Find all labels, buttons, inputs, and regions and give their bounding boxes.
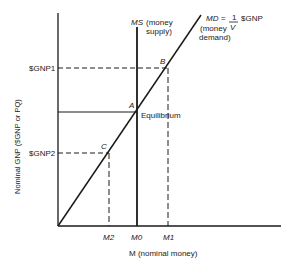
equilibrium-label: Equilibrium — [141, 111, 181, 120]
point-c-label: C — [101, 142, 107, 151]
md-fraction-denominator: V — [230, 23, 236, 32]
money-market-diagram: $GNP1 $GNP2 Nominal GNP ($GNP or PQ) M2 … — [0, 0, 289, 266]
ms-label-sub2: supply) — [146, 27, 172, 36]
y-tick-gnp1: $GNP1 — [29, 64, 56, 73]
md-label-sub2: demand) — [199, 33, 231, 42]
md-label-tail: $GNP — [241, 14, 263, 23]
point-a-label: A — [128, 101, 134, 110]
y-tick-gnp2: $GNP2 — [29, 149, 56, 158]
x-tick-m0: M0 — [131, 233, 143, 242]
md-label-sub1: (money — [200, 24, 227, 33]
point-b-label: B — [160, 57, 166, 66]
x-axis-label: M (nominal money) — [129, 249, 198, 258]
ms-label-sub1: (money — [146, 18, 173, 27]
md-label: MD = — [206, 14, 226, 23]
md-fraction-numerator: 1 — [232, 13, 237, 22]
x-tick-m1: M1 — [163, 233, 174, 242]
money-demand-line — [58, 15, 201, 226]
ms-label: MS — [131, 18, 144, 27]
y-axis-label: Nominal GNP ($GNP or PQ) — [13, 99, 22, 194]
x-tick-m2: M2 — [103, 233, 115, 242]
